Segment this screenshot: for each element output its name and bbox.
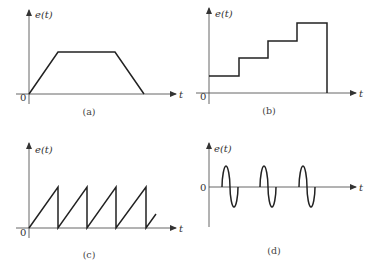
x-label: t [359, 182, 364, 193]
origin-label: 0 [200, 91, 206, 102]
sine-burst-1 [222, 166, 238, 207]
y-label: e(t) [215, 8, 233, 19]
y-label: e(t) [214, 143, 232, 154]
caption: (a) [82, 106, 95, 117]
panel-c: e(t) t 0 (c) [16, 143, 184, 260]
caption: (c) [83, 249, 96, 260]
caption: (b) [262, 105, 276, 116]
panel-a: e(t) t 0 (a) [16, 9, 184, 117]
panel-b: e(t) t 0 (b) [196, 8, 364, 116]
sine-burst-2 [260, 166, 276, 207]
signal-diagram: e(t) t 0 (a) e(t) t 0 (b) e(t) t 0 (c) e… [0, 0, 380, 269]
caption: (d) [267, 245, 281, 256]
origin-label: 0 [200, 182, 206, 193]
x-label: t [179, 89, 184, 100]
trapezoid-signal [29, 52, 144, 94]
x-label: t [359, 88, 364, 99]
staircase-signal [209, 23, 327, 93]
origin-label: 0 [20, 227, 26, 238]
sine-burst-3 [299, 166, 315, 207]
sawtooth-signal [29, 187, 156, 228]
panel-d: e(t) t 0 (d) [200, 143, 364, 256]
y-label: e(t) [35, 9, 53, 20]
y-label: e(t) [35, 144, 53, 155]
x-label: t [179, 223, 184, 234]
origin-label: 0 [20, 92, 26, 103]
